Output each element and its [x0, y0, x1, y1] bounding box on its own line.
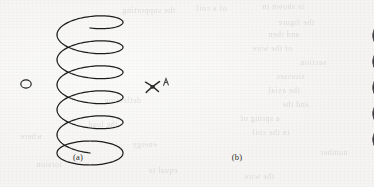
- panel-b: (b): [187, 0, 374, 187]
- panel-b-label: (b): [217, 152, 257, 162]
- handwritten-x-mark: [142, 76, 172, 100]
- panel-a: (a): [0, 0, 187, 187]
- small-ellipse-marker: [14, 74, 38, 94]
- helix-solid-render: [187, 0, 374, 160]
- figure-container: the supportingof a coilis shown inthe fi…: [0, 0, 374, 187]
- panel-a-label: (a): [58, 152, 98, 162]
- helix-outline-path: [57, 16, 123, 153]
